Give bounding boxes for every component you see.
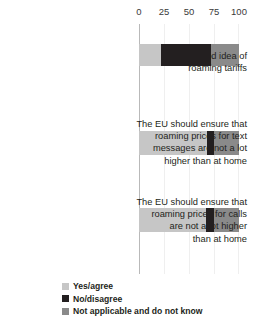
x-axis-tick-labels: 0 25 50 75 100 — [0, 6, 254, 20]
x-tick-75: 75 — [209, 6, 220, 18]
category-label-0-line-0: Have a good idea of — [122, 50, 247, 62]
category-label-2-line-2: are not a lot higher — [122, 220, 247, 232]
category-label-1: The EU should ensure that roaming prices… — [122, 118, 254, 167]
legend-label-not-applicable: Not applicable and do not know — [73, 306, 202, 316]
category-label-1-line-1: roaming prices for text — [122, 130, 247, 142]
category-label-0-line-1: roaming tariffs — [122, 62, 247, 74]
category-label-1-line-3: higher than at home — [122, 155, 247, 167]
legend-swatch-not-applicable-icon — [62, 308, 69, 315]
legend-label-no-disagree: No/disagree — [73, 294, 122, 304]
legend-item-yes-agree: Yes/agree — [62, 281, 254, 291]
stacked-bar-chart: 0 25 50 75 100 — [0, 0, 254, 327]
legend-item-not-applicable: Not applicable and do not know — [62, 306, 254, 316]
category-label-1-line-2: messages are not a lot — [122, 142, 247, 154]
x-tick-25: 25 — [159, 6, 170, 18]
legend-item-no-disagree: No/disagree — [62, 294, 254, 304]
category-label-1-line-0: The EU should ensure that — [122, 118, 247, 130]
legend-swatch-no-disagree-icon — [62, 295, 69, 302]
legend-label-yes-agree: Yes/agree — [73, 281, 113, 291]
category-label-2-line-3: than at home — [122, 233, 247, 245]
legend-swatch-yes-agree-icon — [62, 283, 69, 290]
x-tick-50: 50 — [184, 6, 195, 18]
category-label-2: The EU should ensure that roaming prices… — [122, 196, 254, 245]
category-label-0: Have a good idea of roaming tariffs — [122, 50, 254, 74]
x-tick-100: 100 — [231, 6, 247, 18]
chart-legend: Yes/agree No/disagree Not applicable and… — [62, 281, 254, 319]
category-label-2-line-0: The EU should ensure that — [122, 196, 247, 208]
x-tick-0: 0 — [136, 6, 141, 18]
category-label-2-line-1: roaming prices for calls — [122, 208, 247, 220]
